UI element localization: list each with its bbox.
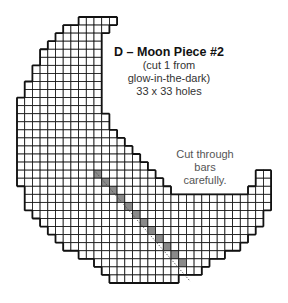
grid-cell: [202, 210, 210, 218]
grid-cell: [40, 81, 48, 89]
grid-cell: [40, 178, 48, 186]
grid-cell: [25, 90, 33, 98]
grid-cell: [148, 210, 156, 218]
grid-cell: [71, 65, 79, 73]
grid-cell: [109, 202, 117, 210]
grid-cell: [217, 194, 225, 202]
note-line: carefully.: [160, 174, 250, 187]
grid-cell: [86, 162, 94, 170]
grid-cell: [133, 251, 141, 259]
grid-cell: [25, 114, 33, 122]
grid-cell: [86, 138, 94, 146]
grid-cell: [71, 170, 79, 178]
grid-cell: [210, 194, 218, 202]
grid-cell: [71, 49, 79, 57]
grid-cell: [140, 162, 148, 170]
grid-cell: [140, 186, 148, 194]
grid-cell: [48, 57, 56, 65]
grid-cell: [63, 243, 71, 251]
grid-cell: [140, 210, 148, 218]
grid-cell: [71, 154, 79, 162]
grid-cell: [63, 130, 71, 138]
grid-cell: [56, 162, 64, 170]
grid-cell: [40, 73, 48, 81]
grid-cell: [17, 138, 25, 146]
grid-cell: [40, 194, 48, 202]
grid-cell: [71, 90, 79, 98]
grid-cell: [102, 154, 110, 162]
grid-cell: [163, 186, 171, 194]
grid-cell: [233, 219, 241, 227]
grid-cell: [202, 194, 210, 202]
grid-cell: [63, 146, 71, 154]
grid-cell: [94, 138, 102, 146]
grid-cell: [248, 186, 256, 194]
grid-cell: [40, 219, 48, 227]
grid-cell: [79, 98, 87, 106]
grid-cell: [179, 227, 187, 235]
grid-cell: [71, 146, 79, 154]
grid-cell: [94, 49, 102, 57]
grid-cell: [148, 259, 156, 267]
grid-cell: [240, 210, 248, 218]
grid-cell: [194, 202, 202, 210]
grid-cell: [125, 251, 133, 259]
grid-cell: [71, 202, 79, 210]
grid-cell: [233, 194, 241, 202]
grid-cell: [240, 194, 248, 202]
grid-cell: [63, 49, 71, 57]
grid-cell: [32, 106, 40, 114]
grid-cell: [25, 130, 33, 138]
grid-cell: [71, 210, 79, 218]
grid-cell: [17, 122, 25, 130]
grid-cell: [194, 267, 202, 275]
grid-cell: [94, 251, 102, 259]
note-line: Cut through: [160, 148, 250, 161]
grid-cell: [71, 122, 79, 130]
grid-cell: [109, 130, 117, 138]
grid-cell: [109, 259, 117, 267]
grid-cell: [148, 251, 156, 259]
pattern-title: D – Moon Piece #2: [104, 45, 234, 59]
grid-cell: [109, 243, 117, 251]
grid-cell: [79, 154, 87, 162]
grid-cell: [63, 186, 71, 194]
grid-cell: [79, 210, 87, 218]
grid-cell: [25, 138, 33, 146]
grid-cell: [79, 251, 87, 259]
grid-cell: [56, 202, 64, 210]
grid-cell: [125, 243, 133, 251]
grid-cell: [179, 267, 187, 275]
grid-cell: [94, 227, 102, 235]
grid-cell: [202, 259, 210, 267]
grid-cell: [56, 227, 64, 235]
grid-cell: [117, 235, 125, 243]
grid-cell: [125, 186, 133, 194]
grid-cell: [79, 178, 87, 186]
grid-cell: [133, 243, 141, 251]
grid-cell: [48, 162, 56, 170]
grid-cell: [71, 57, 79, 65]
grid-cell: [32, 210, 40, 218]
grid-cell: [86, 114, 94, 122]
grid-cell: [102, 186, 110, 194]
grid-cell: [86, 219, 94, 227]
grid-cell: [225, 194, 233, 202]
grid-cell: [79, 162, 87, 170]
grid-cell: [186, 227, 194, 235]
grid-cell: [32, 65, 40, 73]
grid-cell: [94, 259, 102, 267]
grid-cell: [86, 90, 94, 98]
note-line: bars: [160, 161, 250, 174]
grid-cell: [117, 186, 125, 194]
grid-cell: [48, 210, 56, 218]
grid-cell: [79, 25, 87, 33]
grid-cell: [86, 106, 94, 114]
grid-cell: [48, 219, 56, 227]
grid-cell: [32, 186, 40, 194]
grid-cell: [202, 251, 210, 259]
grid-cell: [240, 227, 248, 235]
grid-cell: [194, 251, 202, 259]
grid-cell: [125, 194, 133, 202]
grid-cell: [63, 138, 71, 146]
